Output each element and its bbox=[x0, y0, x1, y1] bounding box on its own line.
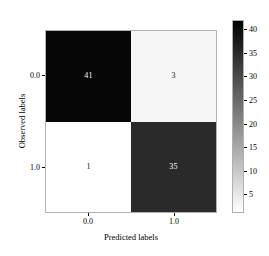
colorbar-tick-label-5: 15 bbox=[249, 143, 257, 152]
y-axis-label: Observed labels bbox=[17, 61, 27, 181]
y-tick-mark-1 bbox=[42, 167, 45, 168]
x-tick-mark-1 bbox=[174, 213, 175, 216]
colorbar-tick-mark-1 bbox=[244, 53, 247, 54]
matrix-cell-value: 3 bbox=[171, 72, 175, 80]
colorbar-gradient bbox=[232, 20, 244, 213]
x-tick-label-0: 0.0 bbox=[68, 217, 108, 226]
colorbar-tick-mark-3 bbox=[244, 100, 247, 101]
colorbar-tick-mark-4 bbox=[244, 124, 247, 125]
x-tick-mark-0 bbox=[88, 213, 89, 216]
matrix-cell-value: 41 bbox=[84, 72, 92, 80]
colorbar: 403530252015105 bbox=[232, 20, 244, 213]
confusion-matrix-figure: 41 3 1 35 0.0 1.0 0.0 1.0 Predicted labe… bbox=[0, 0, 269, 256]
matrix-plot-area: 41 3 1 35 bbox=[45, 30, 217, 213]
colorbar-tick-label-2: 30 bbox=[249, 72, 257, 81]
matrix-cell-0-0: 41 bbox=[46, 31, 131, 122]
colorbar-tick-mark-5 bbox=[244, 147, 247, 148]
colorbar-tick-label-3: 25 bbox=[249, 96, 257, 105]
matrix-cell-value: 1 bbox=[86, 163, 90, 171]
matrix-cell-1-0: 1 bbox=[46, 122, 131, 213]
y-tick-mark-0 bbox=[42, 75, 45, 76]
colorbar-tick-mark-0 bbox=[244, 29, 247, 30]
colorbar-tick-label-7: 5 bbox=[249, 190, 253, 199]
colorbar-tick-mark-2 bbox=[244, 76, 247, 77]
x-axis-label: Predicted labels bbox=[45, 232, 217, 242]
matrix-cell-value: 35 bbox=[169, 163, 177, 171]
colorbar-tick-mark-7 bbox=[244, 194, 247, 195]
colorbar-tick-label-6: 10 bbox=[249, 166, 257, 175]
colorbar-tick-label-1: 35 bbox=[249, 48, 257, 57]
matrix-cell-1-1: 35 bbox=[131, 122, 216, 213]
x-tick-label-1: 1.0 bbox=[154, 217, 194, 226]
colorbar-tick-label-0: 40 bbox=[249, 25, 257, 34]
colorbar-tick-label-4: 20 bbox=[249, 119, 257, 128]
matrix-cell-0-1: 3 bbox=[131, 31, 216, 122]
colorbar-tick-mark-6 bbox=[244, 171, 247, 172]
